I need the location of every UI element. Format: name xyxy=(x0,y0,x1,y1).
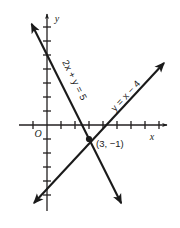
coordinate-graph-figure: x y O (3, −1) 2x + y = 5 y = x − 4 xyxy=(0,0,180,228)
x-axis-label: x xyxy=(149,131,155,142)
graph-canvas: x y O (3, −1) 2x + y = 5 y = x − 4 xyxy=(0,0,180,228)
intersection-point-label: (3, −1) xyxy=(96,138,124,149)
equation-label-line2: y = x − 4 xyxy=(108,78,142,113)
y-axis-label: y xyxy=(54,13,60,24)
origin-label: O xyxy=(34,128,41,139)
line-2x-plus-y-equals-5 xyxy=(32,24,122,203)
equation-label-line1: 2x + y = 5 xyxy=(60,58,89,102)
line-y-equals-x-minus-4 xyxy=(34,63,164,203)
intersection-point-marker xyxy=(86,136,92,142)
